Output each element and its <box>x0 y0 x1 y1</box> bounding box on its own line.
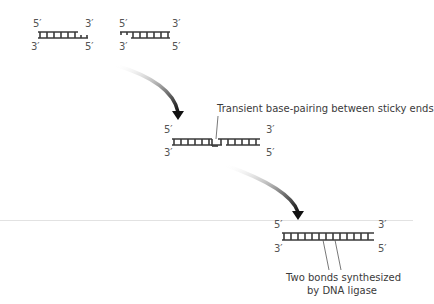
ligated-molecule <box>282 233 374 240</box>
annealed-pointer-line <box>216 116 218 139</box>
annealed-bottom-right-label: 5′ <box>266 148 275 158</box>
ligated-bottom-right-label: 5′ <box>378 244 387 254</box>
annealed-molecule <box>172 139 260 146</box>
annealed-bottom-left-label: 3′ <box>164 148 173 158</box>
ligated-caption-line-2: by DNA ligase <box>286 285 398 298</box>
ligated-top-left-label: 5′ <box>274 220 283 230</box>
left-fragment-bottom-left-label: 3′ <box>31 42 40 52</box>
right-fragment-bottom-right-label: 5′ <box>172 42 181 52</box>
ligated-caption: Two bonds synthesized by DNA ligase <box>286 272 398 297</box>
ligated-top-right-label: 3′ <box>378 220 387 230</box>
left-fragment-bottom-right-label: 5′ <box>85 42 94 52</box>
right-fragment <box>120 32 170 38</box>
annealed-top-right-label: 3′ <box>266 125 275 135</box>
arrow-1-icon <box>115 65 184 120</box>
ligase-pointer-line-2 <box>335 240 341 270</box>
ligase-pointer-line-1 <box>323 240 329 270</box>
left-fragment-top-right-label: 3′ <box>85 19 94 29</box>
ligated-caption-line-1: Two bonds synthesized <box>286 272 398 285</box>
ligated-bottom-left-label: 3′ <box>274 244 283 254</box>
left-fragment-top-left-label: 5′ <box>33 19 42 29</box>
left-fragment <box>38 32 88 38</box>
arrow-2-icon <box>225 165 304 220</box>
annealed-top-left-label: 5′ <box>164 125 173 135</box>
annealed-caption: Transient base-pairing between sticky en… <box>217 103 434 116</box>
right-fragment-top-left-label: 5′ <box>119 19 128 29</box>
right-fragment-top-right-label: 3′ <box>172 19 181 29</box>
right-fragment-bottom-left-label: 3′ <box>119 42 128 52</box>
